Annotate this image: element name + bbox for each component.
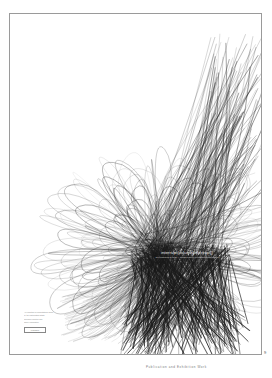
- page-number: 9: [264, 350, 266, 355]
- publisher-logo-box: Publisher: [24, 327, 46, 333]
- page-caption: Publication and Exhibition Work: [146, 365, 207, 369]
- poster-title-block: interrupt(volume[interrupt]) an exhibiti…: [142, 250, 232, 260]
- poster-subtitle: an exhibition of code + image-based work…: [142, 256, 232, 260]
- poster-credits: An exhibition of computational works by …: [24, 311, 74, 323]
- credit-line: gallery information: [24, 321, 74, 324]
- poster-frame: interrupt(volume[interrupt]) an exhibiti…: [9, 13, 262, 355]
- generative-line-art: [10, 14, 262, 355]
